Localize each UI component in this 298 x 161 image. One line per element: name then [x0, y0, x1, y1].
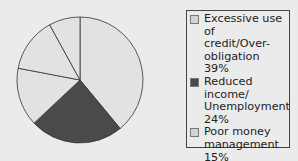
legend-swatch	[190, 15, 199, 24]
legend-swatch	[190, 128, 199, 137]
legend: Excessive use of credit/Over- obligation…	[186, 10, 290, 148]
legend-swatch	[190, 78, 199, 87]
legend-item-reduced-income: Reduced income/ Unemployment 24%	[190, 76, 286, 126]
legend-item-poor-money-management: Poor money management 15%	[190, 126, 286, 161]
legend-item-excessive-credit: Excessive use of credit/Over- obligation…	[190, 13, 286, 76]
pie-chart	[0, 0, 180, 161]
